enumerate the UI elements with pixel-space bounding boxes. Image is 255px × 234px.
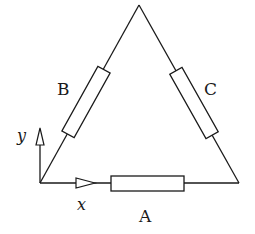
label-a: A <box>138 206 152 226</box>
label-y-axis: y <box>16 126 27 145</box>
resistor-a <box>111 176 184 191</box>
label-b: B <box>57 79 70 99</box>
triangle-circuit-diagram: B C A y x <box>0 0 255 234</box>
resistor-c <box>170 67 218 138</box>
y-axis-arrow-icon <box>36 128 44 145</box>
resistor-b <box>62 66 110 137</box>
x-axis-arrow-icon <box>76 178 95 188</box>
label-x-axis: x <box>77 195 86 214</box>
label-c: C <box>204 79 217 99</box>
